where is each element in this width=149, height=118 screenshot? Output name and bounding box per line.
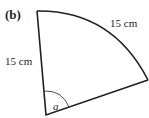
radius-label: 15 cm [5, 55, 33, 67]
figure-label: (b) [5, 7, 21, 22]
angle-label: a [53, 100, 59, 112]
arc-length-label: 15 cm [110, 17, 138, 29]
sector-diagram: (b) a 15 cm 15 cm [0, 0, 149, 118]
